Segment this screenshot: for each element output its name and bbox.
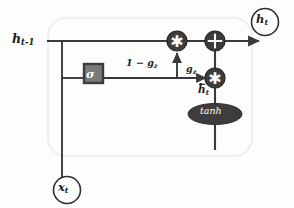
multiply-top-glyph: ✱ (170, 32, 183, 51)
multiply-bottom-glyph: ✱ (208, 69, 221, 88)
label-hidden-state-current: ht (256, 14, 268, 26)
label-gate: gz (186, 64, 196, 74)
label-one-minus-gate: 1 − gz (126, 58, 158, 68)
diagram-svg: ✱ ✱ (0, 0, 294, 208)
label-input-x: xt (58, 182, 68, 194)
tilde-accent: ~ (198, 79, 205, 89)
label-candidate-hidden-state: ~ht (198, 84, 209, 95)
sigma-glyph: σ (86, 69, 94, 81)
tanh-label: tanh (200, 106, 222, 116)
label-hidden-state-previous: ht-1 (12, 33, 34, 46)
diagram-canvas: ✱ ✱ ht-1 1 − gz gz ~ht ht xt σ tanh (0, 0, 294, 208)
